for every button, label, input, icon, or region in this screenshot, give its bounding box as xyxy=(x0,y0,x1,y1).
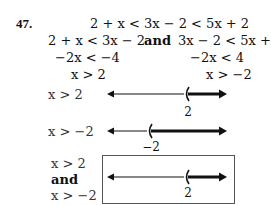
number-lines-graphic xyxy=(0,0,271,205)
right-arrow-icon xyxy=(219,90,227,99)
left-arrow-icon xyxy=(107,91,114,98)
left-arrow-icon xyxy=(107,128,114,135)
number-line-3-point-label: 2 xyxy=(178,187,198,199)
number-line-1-point-label: 2 xyxy=(178,106,198,118)
number-line-2-point-label: −2 xyxy=(141,141,161,153)
number-line-2 xyxy=(107,124,227,138)
right-arrow-icon xyxy=(219,127,227,136)
left-arrow-icon xyxy=(107,174,114,181)
number-line-1 xyxy=(107,87,227,101)
right-arrow-icon xyxy=(219,173,227,182)
number-line-3 xyxy=(107,170,227,184)
